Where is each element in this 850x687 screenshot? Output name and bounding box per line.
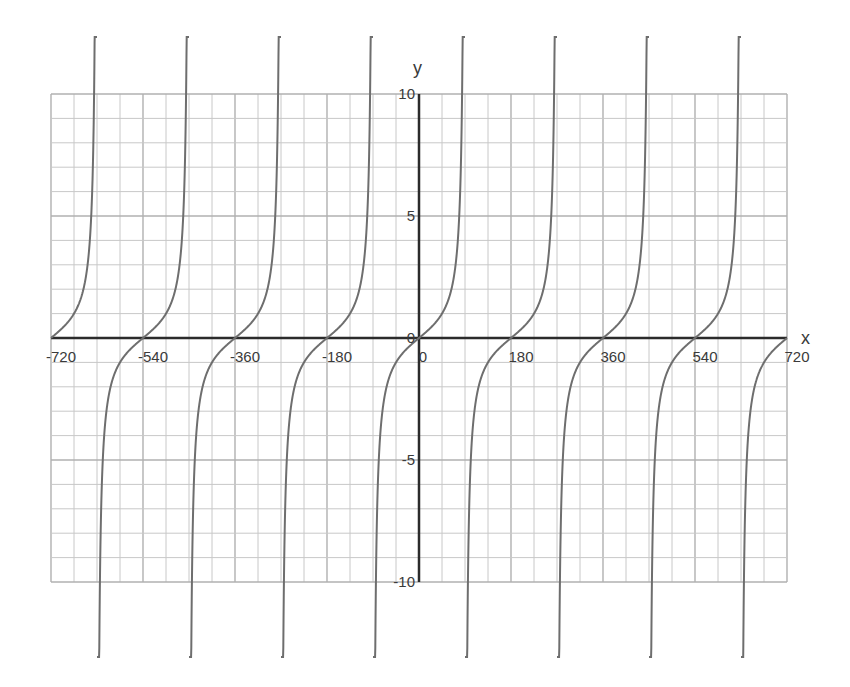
y-tick-label: -10 [393,573,415,590]
x-tick-label: -180 [322,348,352,365]
x-tick-label: 360 [600,348,625,365]
y-tick-label: -5 [402,451,415,468]
y-axis-label: y [413,58,422,78]
x-tick-label: 540 [692,348,717,365]
y-tick-label: 10 [398,85,415,102]
x-axis-label: x [801,328,810,348]
x-tick-label: 180 [508,348,533,365]
x-tick-label: -360 [230,348,260,365]
x-tick-label: 720 [784,348,809,365]
y-tick-label: 0 [407,329,415,346]
x-tick-label: -540 [138,348,168,365]
y-tick-label: 5 [407,207,415,224]
x-tick-label: 0 [419,348,427,365]
x-tick-label: -720 [46,348,76,365]
tangent-graph: -720-540-360-1800180360540720 -10-50510 … [0,0,850,687]
